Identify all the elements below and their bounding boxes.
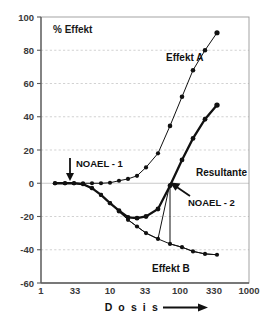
noael-1-label: NOAEL - 1 xyxy=(76,158,124,169)
effekt-a-label: Effekt A xyxy=(166,52,203,63)
noael-2-label: NOAEL - 2 xyxy=(188,197,235,208)
y-tick-label-80: 80 xyxy=(23,45,34,56)
x-tick-label-330: 330 xyxy=(206,285,222,296)
x-axis-title: D o s i s xyxy=(105,301,160,313)
y-axis-title: % Effekt xyxy=(53,24,93,35)
dose-response-chart: 100 80 60 40 20 0 -20 -40 -60 1 33 10 33… xyxy=(0,0,272,318)
x-tick-label-33b: 33 xyxy=(140,285,151,296)
y-tick-label-60: 60 xyxy=(23,78,34,89)
effekt-b-label: Effekt B xyxy=(152,263,190,274)
y-tick-label-100: 100 xyxy=(18,12,34,23)
x-tick-label-33a: 33 xyxy=(70,285,81,296)
x-tick-label-1: 1 xyxy=(38,285,44,296)
chart-figure: 100 80 60 40 20 0 -20 -40 -60 1 33 10 33… xyxy=(0,0,272,318)
x-tick-label-1000: 1000 xyxy=(238,285,259,296)
dosis-arrow-icon xyxy=(163,304,208,312)
y-tick-label-20: 20 xyxy=(23,145,34,156)
resultante-label: Resultante xyxy=(196,167,248,178)
y-tick-label-40: 40 xyxy=(23,111,34,122)
y-tick-label-minus60: -60 xyxy=(20,278,34,289)
y-tick-label-minus20: -20 xyxy=(20,211,34,222)
x-tick-label-10: 10 xyxy=(105,285,116,296)
y-tick-label-minus40: -40 xyxy=(20,244,34,255)
y-tick-label-0: 0 xyxy=(29,178,34,189)
x-tick-label-100: 100 xyxy=(172,285,188,296)
